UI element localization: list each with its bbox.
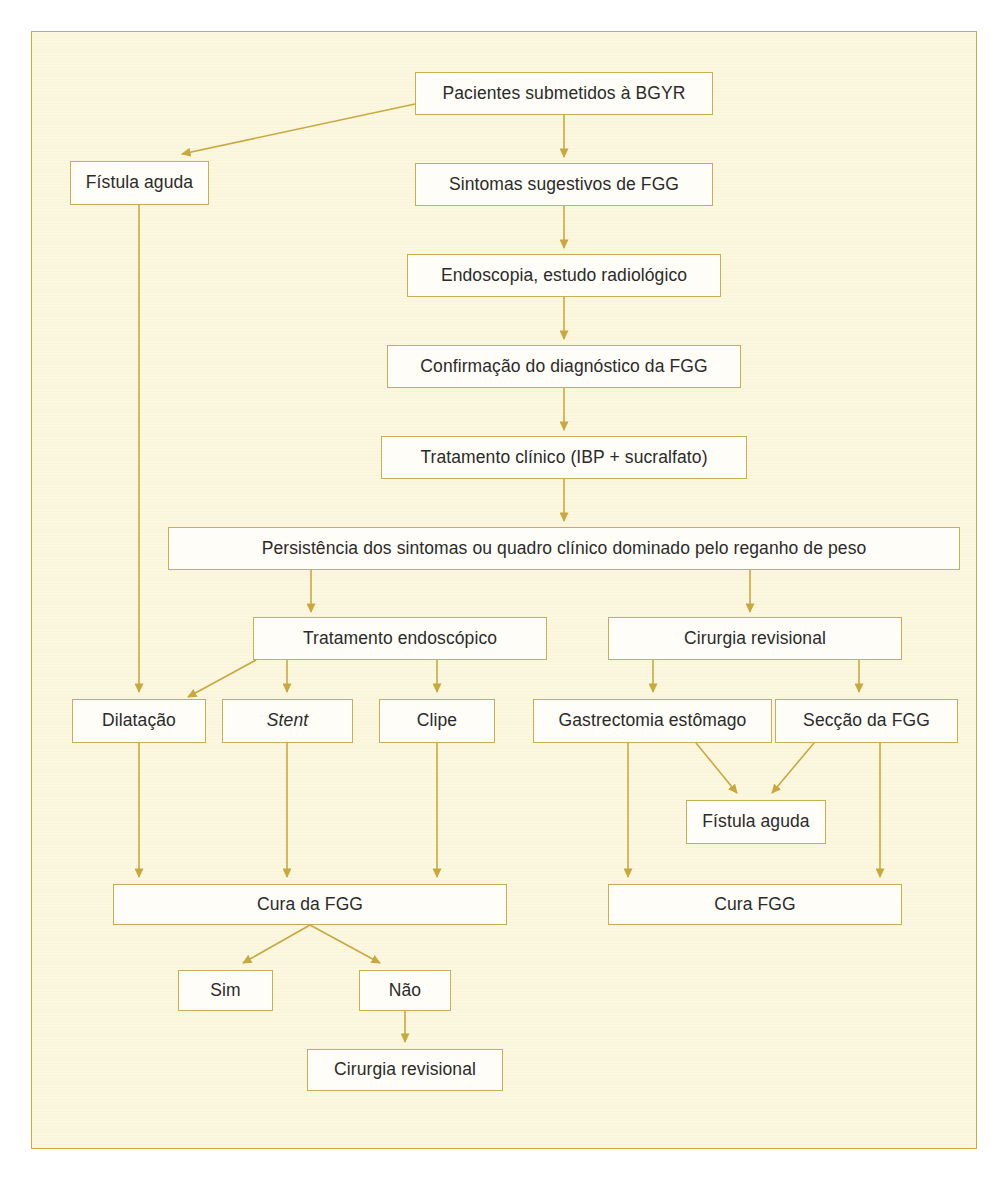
node-persistencia[interactable]: Persistência dos sintomas ou quadro clín…: [168, 527, 960, 570]
node-label: Endoscopia, estudo radiológico: [441, 267, 687, 285]
node-label: Dilatação: [102, 712, 176, 730]
node-sintomas[interactable]: Sintomas sugestivos de FGG: [415, 163, 713, 206]
node-label: Sim: [210, 982, 240, 1000]
node-sim[interactable]: Sim: [178, 970, 273, 1011]
node-fistula-aguda-low[interactable]: Fístula aguda: [686, 800, 826, 844]
node-label: Tratamento endoscópico: [303, 630, 497, 648]
node-tratamento-endoscopico[interactable]: Tratamento endoscópico: [253, 617, 547, 660]
node-gastrectomia[interactable]: Gastrectomia estômago: [533, 699, 772, 743]
node-label: Secção da FGG: [803, 712, 930, 730]
node-label: Cura da FGG: [257, 896, 363, 914]
node-seccao-fgg[interactable]: Secção da FGG: [775, 699, 958, 743]
node-label: Pacientes submetidos à BGYR: [443, 85, 686, 103]
node-label: Fístula aguda: [702, 813, 809, 831]
node-label: Não: [389, 982, 421, 1000]
node-label: Persistência dos sintomas ou quadro clín…: [262, 540, 867, 558]
node-label: Stent: [267, 712, 308, 730]
node-label: Confirmação do diagnóstico da FGG: [420, 358, 707, 376]
node-cura-da-fgg[interactable]: Cura da FGG: [113, 884, 507, 925]
node-clipe[interactable]: Clipe: [379, 699, 495, 743]
node-label: Gastrectomia estômago: [559, 712, 747, 730]
node-nao[interactable]: Não: [359, 970, 451, 1011]
node-confirmacao[interactable]: Confirmação do diagnóstico da FGG: [387, 345, 741, 388]
node-stent[interactable]: Stent: [222, 699, 353, 743]
node-label: Tratamento clínico (IBP + sucralfato): [420, 449, 707, 467]
node-label: Fístula aguda: [86, 174, 193, 192]
node-cura-fgg[interactable]: Cura FGG: [608, 884, 902, 925]
node-label: Cura FGG: [714, 896, 796, 914]
node-cirurgia-revisional-bottom[interactable]: Cirurgia revisional: [307, 1049, 503, 1091]
node-label: Sintomas sugestivos de FGG: [449, 176, 679, 194]
node-label: Cirurgia revisional: [684, 630, 826, 648]
node-dilatacao[interactable]: Dilatação: [72, 699, 206, 743]
node-tratamento-clinico[interactable]: Tratamento clínico (IBP + sucralfato): [381, 436, 747, 479]
node-label: Cirurgia revisional: [334, 1061, 476, 1079]
node-pacientes[interactable]: Pacientes submetidos à BGYR: [415, 72, 713, 115]
node-endoscopia[interactable]: Endoscopia, estudo radiológico: [407, 254, 721, 297]
node-cirurgia-revisional-mid[interactable]: Cirurgia revisional: [608, 617, 902, 660]
node-fistula-aguda-top[interactable]: Fístula aguda: [70, 161, 209, 205]
node-label: Clipe: [417, 712, 457, 730]
